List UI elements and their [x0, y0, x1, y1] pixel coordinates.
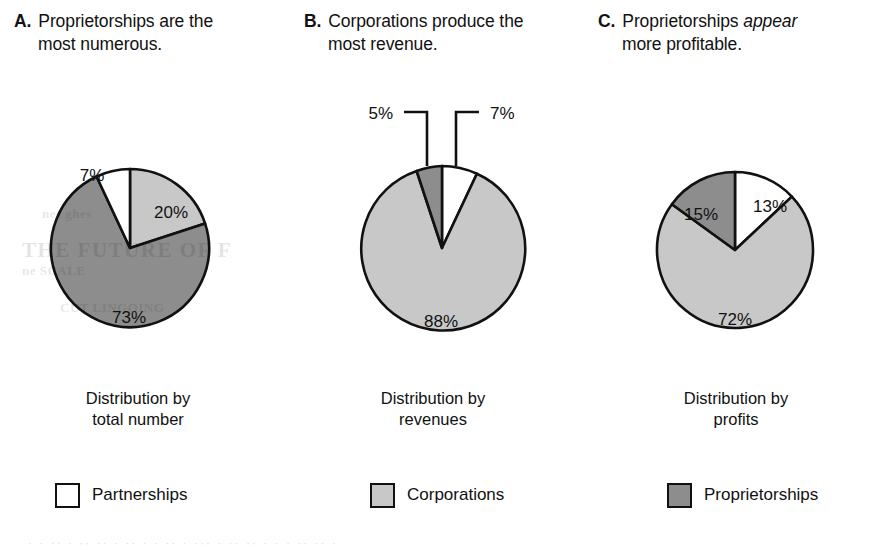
- watermark-lower: ne SCALE: [22, 263, 262, 279]
- panel-c-caption-line2: profits: [589, 409, 883, 430]
- watermark-upper: nes ghes: [42, 206, 282, 222]
- panel-a-caption: Distribution by total number: [0, 388, 285, 430]
- slice-proprietorships: [672, 172, 735, 250]
- panel-c-title: C.Proprietorships appear more profitable…: [598, 10, 882, 56]
- panel-b-caption-line2: revenues: [286, 409, 580, 430]
- panel-c-title-pre: Proprietorships: [622, 11, 738, 31]
- pie-a-slices: [51, 169, 209, 327]
- white-swatch-icon: [55, 483, 80, 508]
- panel-c-caption-line1: Distribution by: [589, 388, 883, 409]
- panel-a-title-line1: Proprietorships are the: [38, 11, 213, 31]
- pie-chart-panels: A.Proprietorships are the most numerous.…: [0, 0, 883, 470]
- pie-a-label-partnerships: 7%: [80, 166, 105, 185]
- scan-artifact-text: · · ·· · ·· ·· · ·· · · ·· · ··· · ·· ··…: [28, 536, 828, 548]
- pie-b-leader-lines: [404, 112, 479, 166]
- legend-item-partnerships: Partnerships: [55, 480, 187, 510]
- panel-b-title-line2: most revenue.: [328, 34, 438, 54]
- panel-a-letter: A.: [14, 11, 31, 31]
- pie-a-label-corporations: 20%: [154, 203, 188, 222]
- slice-corporations: [130, 169, 205, 248]
- legend-label-partnerships: Partnerships: [92, 485, 187, 505]
- dark-gray-swatch-icon: [667, 483, 692, 508]
- slice-proprietorships: [51, 177, 209, 328]
- pie-b-slices: [361, 166, 525, 331]
- panel-a-caption-line2: total number: [0, 409, 285, 430]
- panel-c-title-line2: more profitable.: [622, 34, 742, 54]
- legend-item-proprietorships: Proprietorships: [667, 480, 818, 510]
- panel-b-caption-line1: Distribution by: [286, 388, 580, 409]
- slice-partnerships: [735, 172, 792, 250]
- pie-c-label-partnerships: 13%: [753, 197, 787, 216]
- slice-proprietorships: [417, 166, 442, 248]
- watermark-bottom: CUT LINGOING: [60, 300, 300, 316]
- panel-b-caption: Distribution by revenues: [286, 388, 580, 430]
- legend-label-proprietorships: Proprietorships: [704, 485, 818, 505]
- panel-c-letter: C.: [598, 11, 615, 31]
- watermark-main: THE FUTURE OF F: [22, 238, 262, 263]
- panel-a-title: A.Proprietorships are the most numerous.: [14, 10, 282, 56]
- leader-line-partnerships: [456, 112, 479, 166]
- panel-b-letter: B.: [304, 11, 321, 31]
- panel-a: A.Proprietorships are the most numerous.…: [0, 0, 294, 470]
- slice-partnerships: [442, 166, 477, 248]
- legend-label-corporations: Corporations: [407, 485, 504, 505]
- slice-corporations: [361, 171, 525, 331]
- light-gray-swatch-icon: [370, 483, 395, 508]
- panel-a-caption-line1: Distribution by: [0, 388, 285, 409]
- pie-b-label-proprietorships: 5%: [368, 104, 393, 123]
- legend-item-corporations: Corporations: [370, 480, 504, 510]
- pie-c-label-corporations: 72%: [718, 310, 752, 329]
- panel-c-title-emphasis: appear: [743, 11, 797, 31]
- slice-corporations: [657, 197, 813, 328]
- pie-c-slices: [657, 172, 813, 328]
- panel-c: C.Proprietorships appear more profitable…: [588, 0, 882, 470]
- panel-b: B.Corporations produce the most revenue.: [294, 0, 588, 470]
- pie-c-label-proprietorships: 15%: [684, 205, 718, 224]
- panel-a-title-line2: most numerous.: [38, 34, 162, 54]
- pie-b-label-partnerships: 7%: [490, 104, 515, 123]
- panel-b-title: B.Corporations produce the most revenue.: [304, 10, 584, 56]
- pie-b-label-corporations: 88%: [424, 312, 458, 331]
- panel-c-caption: Distribution by profits: [589, 388, 883, 430]
- slice-partnerships: [97, 169, 130, 248]
- leader-line-proprietorships: [404, 112, 427, 166]
- chart-legend: Partnerships Corporations Proprietorship…: [0, 480, 883, 524]
- panel-b-title-line1: Corporations produce the: [328, 11, 523, 31]
- pie-a-label-proprietorships: 73%: [112, 308, 146, 327]
